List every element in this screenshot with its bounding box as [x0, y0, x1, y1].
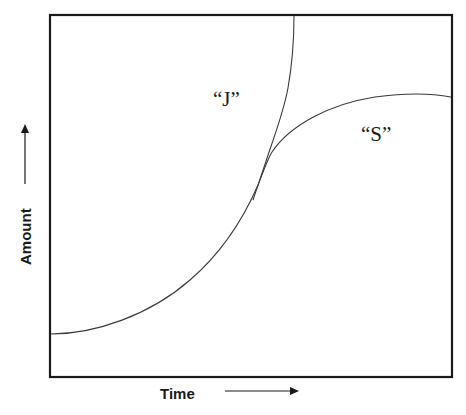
y-axis-label: Amount	[17, 208, 34, 265]
x-axis-arrow-icon	[225, 387, 299, 395]
x-axis-label: Time	[160, 385, 195, 402]
y-axis-arrow-icon	[21, 124, 29, 184]
j-curve-label: “J”	[213, 87, 240, 111]
j-curve-line	[253, 16, 294, 200]
growth-curves-chart: “J” “S” Time Amount	[0, 0, 466, 415]
plot-area-frame	[50, 15, 452, 377]
s-curve-label: “S”	[361, 122, 391, 146]
